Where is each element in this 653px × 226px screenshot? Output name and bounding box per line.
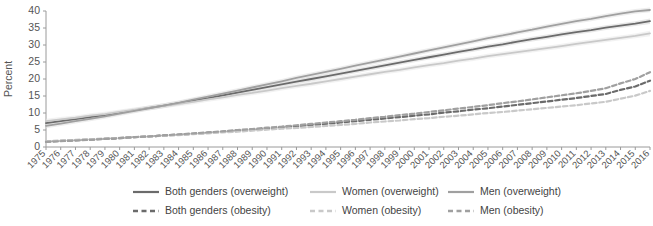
series-line-women-obesity xyxy=(46,91,650,141)
y-axis-title: Percent xyxy=(2,61,14,97)
chart-plot-area: 0510152025303540Percent19751976197719781… xyxy=(0,0,653,226)
y-tick-label: 20 xyxy=(28,72,40,84)
legend-label-men-obesity[interactable]: Men (obesity) xyxy=(480,204,544,216)
legend-label-both-genders-obesity[interactable]: Both genders (obesity) xyxy=(165,204,271,216)
legend-label-women-obesity[interactable]: Women (obesity) xyxy=(342,204,421,216)
y-tick-label: 30 xyxy=(28,38,40,50)
legend-label-women-overweight[interactable]: Women (overweight) xyxy=(342,185,439,197)
y-tick-label: 5 xyxy=(34,123,40,135)
y-tick-label: 15 xyxy=(28,89,40,101)
y-tick-label: 25 xyxy=(28,55,40,67)
obesity-overweight-trend-chart: 0510152025303540Percent19751976197719781… xyxy=(0,0,653,226)
y-tick-label: 40 xyxy=(28,4,40,16)
y-tick-label: 10 xyxy=(28,106,40,118)
legend-label-both-genders-overweight[interactable]: Both genders (overweight) xyxy=(165,185,288,197)
y-tick-label: 35 xyxy=(28,21,40,33)
legend-label-men-overweight[interactable]: Men (overweight) xyxy=(480,185,561,197)
